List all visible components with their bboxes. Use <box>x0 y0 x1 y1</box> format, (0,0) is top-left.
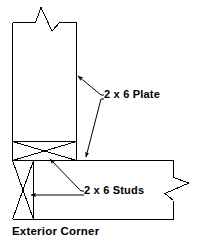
break-symbol-right-icon <box>165 178 189 201</box>
framing-detail-drawing <box>0 0 197 243</box>
label-2x6-studs: 2 x 6 Studs <box>84 185 144 196</box>
figure-caption: Exterior Corner <box>12 226 99 238</box>
leader-plate-lower <box>86 99 101 157</box>
break-symbol-top-icon <box>36 8 60 32</box>
leader-studs-upper <box>50 159 81 191</box>
leader-plate-upper <box>78 76 101 95</box>
label-2x6-plate: 2 x 6 Plate <box>104 89 160 100</box>
exterior-corner-detail-figure: 2 x 6 Plate 2 x 6 Studs Exterior Corner <box>0 0 197 243</box>
